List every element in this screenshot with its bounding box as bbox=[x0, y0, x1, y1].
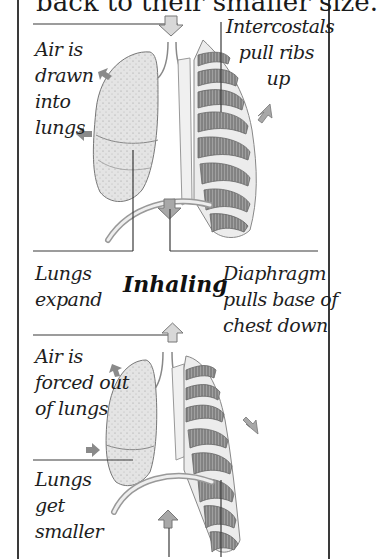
ribcage-bottom bbox=[184, 356, 240, 552]
label-diaphragm-pulls-base: Diaphragm pulls base of chest down bbox=[223, 260, 338, 338]
label-air-forced-out: Air is forced out of lungs bbox=[35, 343, 129, 421]
label-lungs-expand: Lungs expand bbox=[35, 260, 102, 312]
inhaling-heading: Inhaling bbox=[123, 271, 228, 297]
label-intercostals-pull-ribs-up: Intercostals pull ribs up bbox=[226, 13, 314, 91]
label-air-drawn-into-lungs: Air is drawn into lungs bbox=[35, 36, 94, 140]
label-lungs-get-smaller: Lungs get smaller bbox=[35, 466, 103, 544]
trachea-down-arrow bbox=[159, 16, 183, 36]
